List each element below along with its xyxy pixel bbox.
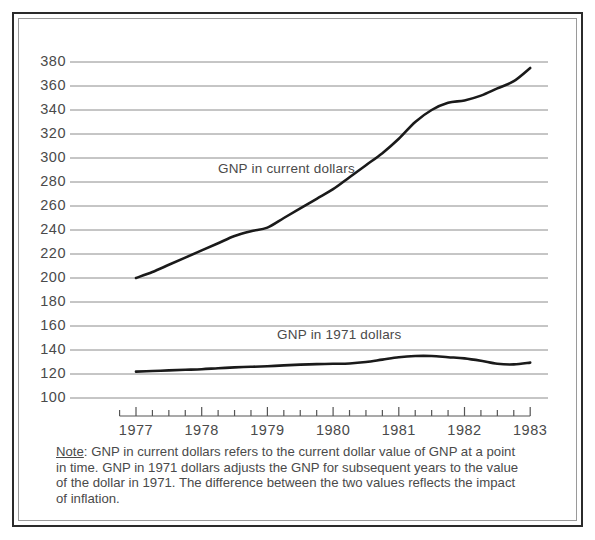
y-tick-label: 240: [22, 221, 66, 237]
chart-figure: 3803603403203002802602402202001801601401…: [0, 0, 595, 540]
y-tick-label: 360: [22, 77, 66, 93]
x-tick-label: 1979: [237, 422, 297, 438]
y-tick-label: 320: [22, 125, 66, 141]
y-tick-label: 300: [22, 149, 66, 165]
footnote: Note: GNP in current dollars refers to t…: [56, 444, 526, 506]
y-tick-label: 120: [22, 365, 66, 381]
x-tick-label: 1977: [106, 422, 166, 438]
x-tick-label: 1981: [369, 422, 429, 438]
footnote-label: Note: [56, 444, 84, 459]
y-tick-label: 380: [22, 53, 66, 69]
x-tick-label: 1983: [500, 422, 560, 438]
y-tick-label: 180: [22, 293, 66, 309]
gridlines: [70, 62, 548, 398]
y-tick-label: 140: [22, 341, 66, 357]
y-tick-label: 280: [22, 173, 66, 189]
y-tick-label: 100: [22, 389, 66, 405]
y-tick-label: 260: [22, 197, 66, 213]
series-label-1971-dollars: GNP in 1971 dollars: [277, 327, 401, 342]
footnote-body: GNP in current dollars refers to the cur…: [56, 444, 518, 506]
series-line-1971-dollars: [136, 356, 530, 372]
x-tick-label: 1978: [172, 422, 232, 438]
y-tick-label: 160: [22, 317, 66, 333]
x-axis: [120, 407, 531, 416]
y-tick-label: 220: [22, 245, 66, 261]
y-tick-label: 340: [22, 101, 66, 117]
x-tick-label: 1982: [435, 422, 495, 438]
series-label-current-dollars: GNP in current dollars: [218, 161, 355, 176]
y-tick-label: 200: [22, 269, 66, 285]
x-tick-label: 1980: [303, 422, 363, 438]
